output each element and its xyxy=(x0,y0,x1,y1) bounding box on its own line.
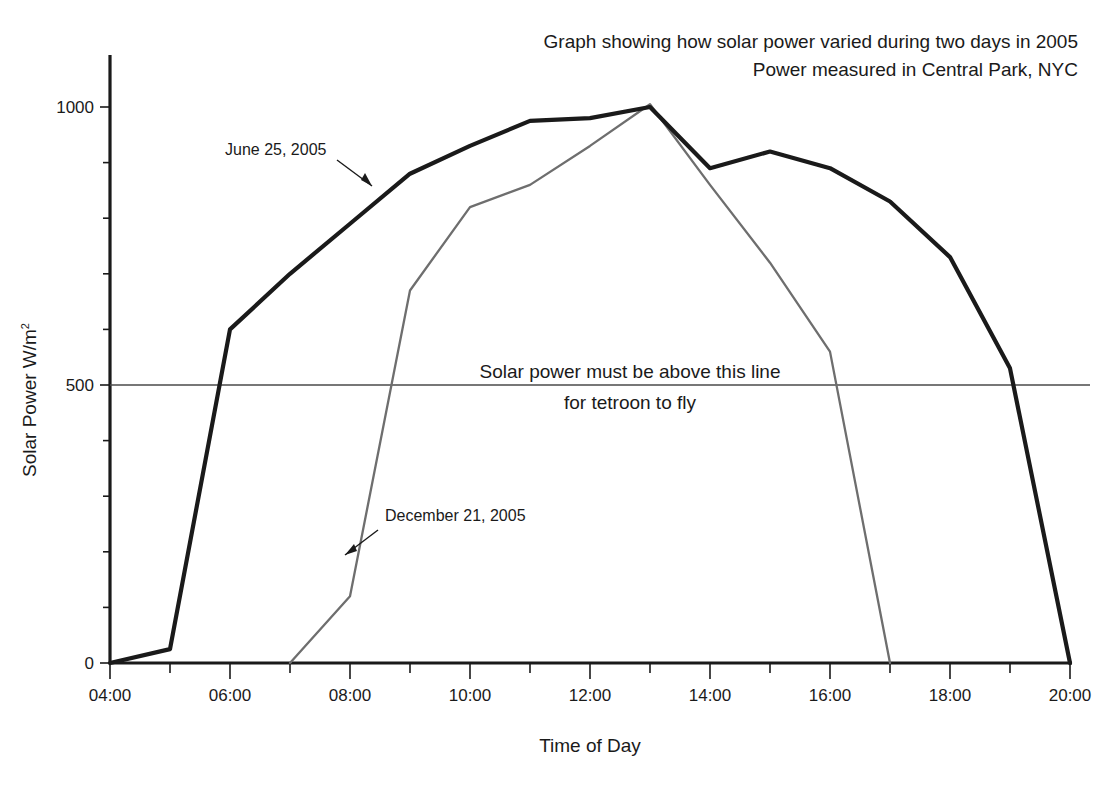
x-axis-title: Time of Day xyxy=(539,735,641,756)
solar-power-chart-figure: Graph showing how solar power varied dur… xyxy=(0,0,1109,796)
chart-title-line-1: Graph showing how solar power varied dur… xyxy=(544,31,1078,52)
x-tick-label-1400: 14:00 xyxy=(689,686,732,705)
chart-title-line-2: Power measured in Central Park, NYC xyxy=(753,59,1078,80)
x-tick-label-1000: 10:00 xyxy=(449,686,492,705)
annotation-december-arrowhead xyxy=(345,544,357,555)
y-tick-label-0: 0 xyxy=(85,654,94,673)
x-tick-label-1800: 18:00 xyxy=(929,686,972,705)
annotation-june-label: June 25, 2005 xyxy=(225,141,327,158)
annotation-june-arrowhead xyxy=(361,173,372,186)
x-tick-label-0600: 06:00 xyxy=(209,686,252,705)
x-tick-label-0400: 04:00 xyxy=(89,686,132,705)
x-tick-label-1200: 12:00 xyxy=(569,686,612,705)
x-axis-ticks xyxy=(110,663,1070,679)
x-tick-label-0800: 08:00 xyxy=(329,686,372,705)
threshold-note-line-2: for tetroon to fly xyxy=(564,392,697,413)
threshold-note-line-1: Solar power must be above this line xyxy=(480,361,781,382)
y-axis-title-group: Solar Power W/m2 xyxy=(19,323,40,477)
y-tick-label-500: 500 xyxy=(66,376,94,395)
series-line-december xyxy=(290,104,890,663)
y-tick-label-1000: 1000 xyxy=(56,98,94,117)
x-tick-label-2000: 20:00 xyxy=(1049,686,1092,705)
x-tick-label-1600: 16:00 xyxy=(809,686,852,705)
chart-canvas: Graph showing how solar power varied dur… xyxy=(0,0,1109,796)
y-axis-title: Solar Power W/m2 xyxy=(19,323,40,477)
annotation-december-label: December 21, 2005 xyxy=(385,507,526,524)
